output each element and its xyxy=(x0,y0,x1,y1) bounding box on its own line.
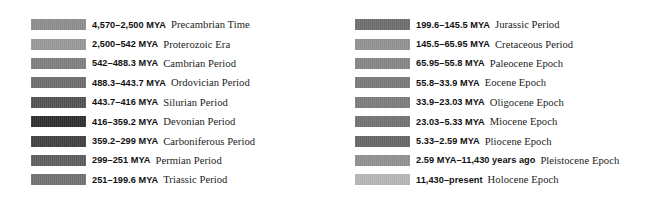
time-range-label: 251–199.6 MYA xyxy=(92,175,158,185)
time-range-label: 11,430–present xyxy=(416,175,483,185)
time-range-label: 359.2–299 MYA xyxy=(92,136,158,146)
time-range-label: 55.8–33.9 MYA xyxy=(416,78,480,88)
color-swatch xyxy=(355,116,410,127)
legend-row: 11,430–presentHolocene Epoch xyxy=(330,170,559,189)
time-unit-name: Pleistocene Epoch xyxy=(540,155,619,166)
legend-row: 2.59 MYA–11,430 years agoPleistocene Epo… xyxy=(330,151,619,170)
time-unit-name: Jurassic Period xyxy=(495,19,560,30)
legend-row: 33.9–23.03 MYAOligocene Epoch xyxy=(330,93,564,112)
legend-row: 299–251 MYAPermian Period xyxy=(0,151,222,170)
color-swatch xyxy=(355,97,410,108)
legend-row: 4,570–2,500 MYAPrecambrian Time xyxy=(0,15,250,34)
legend-row: 251–199.6 MYATriassic Period xyxy=(0,170,227,189)
color-swatch xyxy=(355,174,410,185)
time-unit-name: Devonian Period xyxy=(163,116,235,127)
legend-row: 145.5–65.95 MYACretaceous Period xyxy=(330,34,573,53)
time-unit-name: Eocene Epoch xyxy=(485,77,546,88)
color-swatch xyxy=(31,19,86,30)
time-unit-name: Cambrian Period xyxy=(163,58,236,69)
time-unit-name: Paleocene Epoch xyxy=(490,58,563,69)
color-swatch xyxy=(31,77,86,88)
legend-row: 416–359.2 MYADevonian Period xyxy=(0,112,235,131)
time-range-label: 542–488.3 MYA xyxy=(92,58,158,68)
time-range-label: 4,570–2,500 MYA xyxy=(92,20,166,30)
time-unit-name: Silurian Period xyxy=(163,97,228,108)
time-range-label: 2.59 MYA–11,430 years ago xyxy=(416,155,535,165)
time-unit-name: Carboniferous Period xyxy=(163,136,255,147)
time-range-label: 199.6–145.5 MYA xyxy=(416,20,490,30)
legend-row: 23.03–5.33 MYAMiocene Epoch xyxy=(330,112,557,131)
color-swatch xyxy=(355,136,410,147)
color-swatch xyxy=(355,77,410,88)
legend-row: 5.33–2.59 MYAPliocene Epoch xyxy=(330,131,552,150)
color-swatch xyxy=(31,155,86,166)
time-unit-name: Permian Period xyxy=(155,155,221,166)
time-unit-name: Holocene Epoch xyxy=(488,174,559,185)
color-swatch xyxy=(31,116,86,127)
color-swatch xyxy=(355,19,410,30)
legend-row: 2,500–542 MYAProterozoic Era xyxy=(0,34,230,53)
time-range-label: 33.9–23.03 MYA xyxy=(416,97,485,107)
time-unit-name: Triassic Period xyxy=(163,174,227,185)
time-range-label: 443.7–416 MYA xyxy=(92,97,158,107)
color-swatch xyxy=(31,174,86,185)
time-range-label: 2,500–542 MYA xyxy=(92,39,158,49)
time-range-label: 488.3–443.7 MYA xyxy=(92,78,166,88)
color-swatch xyxy=(31,58,86,69)
time-range-label: 145.5–65.95 MYA xyxy=(416,39,490,49)
color-swatch xyxy=(355,155,410,166)
time-unit-name: Cretaceous Period xyxy=(495,39,573,50)
color-swatch xyxy=(355,58,410,69)
time-range-label: 5.33–2.59 MYA xyxy=(416,136,480,146)
time-unit-name: Pliocene Epoch xyxy=(485,136,552,147)
time-unit-name: Oligocene Epoch xyxy=(490,97,564,108)
legend-row: 443.7–416 MYASilurian Period xyxy=(0,93,228,112)
legend-row: 488.3–443.7 MYAOrdovician Period xyxy=(0,73,250,92)
time-unit-name: Proterozoic Era xyxy=(163,39,230,50)
time-unit-name: Ordovician Period xyxy=(171,77,250,88)
legend-row: 55.8–33.9 MYAEocene Epoch xyxy=(330,73,546,92)
time-unit-name: Miocene Epoch xyxy=(490,116,557,127)
time-range-label: 299–251 MYA xyxy=(92,155,150,165)
legend-row: 542–488.3 MYACambrian Period xyxy=(0,54,236,73)
time-range-label: 23.03–5.33 MYA xyxy=(416,117,485,127)
time-range-label: 65.95–55.8 MYA xyxy=(416,58,485,68)
legend-column-left: 4,570–2,500 MYAPrecambrian Time2,500–542… xyxy=(0,0,330,207)
time-range-label: 416–359.2 MYA xyxy=(92,117,158,127)
color-swatch xyxy=(355,39,410,50)
color-swatch xyxy=(31,39,86,50)
color-swatch xyxy=(31,97,86,108)
legend-row: 359.2–299 MYACarboniferous Period xyxy=(0,131,255,150)
color-swatch xyxy=(31,136,86,147)
time-unit-name: Precambrian Time xyxy=(171,19,250,30)
legend-row: 65.95–55.8 MYAPaleocene Epoch xyxy=(330,54,563,73)
geologic-time-scale-legend: 4,570–2,500 MYAPrecambrian Time2,500–542… xyxy=(0,0,663,207)
legend-row: 199.6–145.5 MYAJurassic Period xyxy=(330,15,560,34)
legend-column-right: 199.6–145.5 MYAJurassic Period145.5–65.9… xyxy=(330,0,663,207)
